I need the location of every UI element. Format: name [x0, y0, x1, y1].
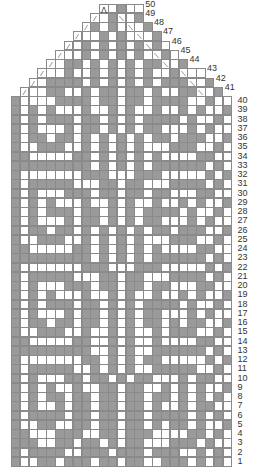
- light-stitch-cell: [223, 96, 232, 106]
- row-number-label: 6: [238, 411, 243, 420]
- row-number-label: 26: [238, 226, 248, 235]
- light-stitch-cell: [223, 401, 232, 411]
- dark-stitch-cell: [223, 355, 232, 365]
- dark-stitch-cell: [205, 78, 214, 88]
- light-stitch-cell: [223, 207, 232, 217]
- k2tog-icon: ⁄: [30, 79, 37, 87]
- light-stitch-cell: [223, 142, 232, 152]
- light-stitch-cell: [223, 327, 232, 337]
- ssk-icon: ⟍: [197, 88, 204, 96]
- row-number-label: 42: [216, 74, 226, 83]
- light-stitch-cell: [223, 281, 232, 291]
- dark-stitch-cell: [134, 13, 143, 23]
- row-number-label: 35: [238, 142, 248, 151]
- light-stitch-cell: [223, 244, 232, 254]
- k2tog-icon: ⁄: [47, 60, 54, 68]
- light-stitch-cell: [223, 124, 232, 134]
- ssk-icon: ⟍: [162, 60, 169, 68]
- dark-stitch-cell: [223, 383, 232, 393]
- dark-stitch-cell: [223, 170, 232, 180]
- light-stitch-cell: [223, 152, 232, 162]
- row-number-label: 49: [145, 9, 155, 18]
- light-stitch-cell: [223, 411, 232, 421]
- row-number-label: 40: [238, 96, 248, 105]
- light-stitch-cell: [223, 374, 232, 384]
- ssk-icon: ⟍: [188, 79, 195, 87]
- dark-stitch-cell: [223, 105, 232, 115]
- k2tog-icon: ⁄: [74, 32, 81, 40]
- row-number-label: 21: [238, 272, 248, 281]
- k2tog-icon: ⁄: [56, 51, 63, 59]
- dark-stitch-cell: [223, 290, 232, 300]
- row-number-label: 33: [238, 161, 248, 170]
- row-number-label: 32: [238, 170, 248, 179]
- ssk-icon: ⟍: [180, 69, 187, 77]
- k2tog-icon: ⁄: [83, 23, 90, 31]
- row-number-label: 36: [238, 133, 248, 142]
- ssk-icon: ⟍: [118, 14, 125, 22]
- row-number-label: 22: [238, 263, 248, 272]
- row-number-label: 7: [238, 401, 243, 410]
- light-stitch-cell: [223, 300, 232, 310]
- row-number-label: 8: [238, 392, 243, 401]
- dark-stitch-cell: [223, 198, 232, 208]
- row-number-label: 44: [189, 55, 199, 64]
- ssk-icon: ⟍: [153, 51, 160, 59]
- knitting-chart: 1234567891011121314151617181920212223242…: [0, 0, 256, 476]
- row-number-label: 16: [238, 318, 248, 327]
- light-stitch-cell: [223, 309, 232, 319]
- ssk-icon: ⟍: [135, 32, 142, 40]
- dark-stitch-cell: [223, 263, 232, 273]
- row-number-label: 27: [238, 216, 248, 225]
- light-stitch-cell: [223, 429, 232, 439]
- row-number-label: 34: [238, 152, 248, 161]
- row-number-label: 30: [238, 189, 248, 198]
- light-stitch-cell: [161, 41, 170, 51]
- dark-stitch-cell: [223, 420, 232, 430]
- row-number-label: 4: [238, 429, 243, 438]
- light-stitch-cell: [223, 253, 232, 263]
- row-number-label: 23: [238, 253, 248, 262]
- light-stitch-cell: [223, 448, 232, 458]
- light-stitch-cell: [223, 189, 232, 199]
- double-decrease-icon: ⋀: [100, 5, 107, 13]
- light-stitch-cell: [223, 364, 232, 374]
- row-number-label: 9: [238, 383, 243, 392]
- row-number-label: 3: [238, 438, 243, 447]
- row-number-label: 39: [238, 105, 248, 114]
- light-stitch-cell: [223, 115, 232, 125]
- k2tog-icon: ⁄: [91, 14, 98, 22]
- row-number-label: 13: [238, 346, 248, 355]
- light-stitch-cell: [223, 337, 232, 347]
- light-stitch-cell: [223, 438, 232, 448]
- row-number-label: 11: [238, 364, 247, 373]
- dark-stitch-cell: [143, 22, 152, 32]
- row-number-label: 25: [238, 235, 248, 244]
- row-number-label: 17: [238, 309, 248, 318]
- ssk-icon: ⟍: [144, 42, 151, 50]
- row-number-label: 41: [225, 83, 235, 92]
- dark-stitch-cell: [214, 87, 223, 97]
- light-stitch-cell: [223, 216, 232, 226]
- light-stitch-cell: [223, 179, 232, 189]
- row-number-label: 20: [238, 281, 248, 290]
- row-number-label: 5: [238, 420, 243, 429]
- row-number-label: 46: [172, 37, 182, 46]
- light-stitch-cell: [223, 346, 232, 356]
- row-number-label: 18: [238, 300, 248, 309]
- row-number-label: 31: [238, 179, 248, 188]
- light-stitch-cell: [196, 68, 205, 78]
- row-number-label: 29: [238, 198, 248, 207]
- row-number-label: 19: [238, 290, 248, 299]
- light-stitch-cell: [223, 161, 232, 171]
- row-number-label: 12: [238, 355, 248, 364]
- row-number-label: 43: [207, 64, 217, 73]
- k2tog-icon: ⁄: [21, 88, 28, 96]
- row-number-label: 15: [238, 327, 248, 336]
- dark-stitch-cell: [223, 133, 232, 143]
- row-number-label: 1: [238, 457, 243, 466]
- light-stitch-cell: [223, 392, 232, 402]
- row-number-label: 24: [238, 244, 248, 253]
- light-stitch-cell: [223, 457, 232, 467]
- row-number-label: 38: [238, 115, 248, 124]
